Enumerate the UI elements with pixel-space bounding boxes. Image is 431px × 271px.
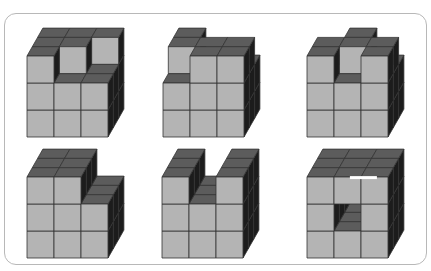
figure-1	[27, 28, 124, 137]
cube-figures-canvas	[0, 0, 431, 271]
tunnel-light	[350, 176, 377, 179]
figure-5	[162, 149, 259, 258]
figure-4	[27, 149, 124, 258]
figure-2	[163, 28, 260, 137]
figure-3	[307, 28, 404, 137]
figure-6	[307, 149, 404, 258]
